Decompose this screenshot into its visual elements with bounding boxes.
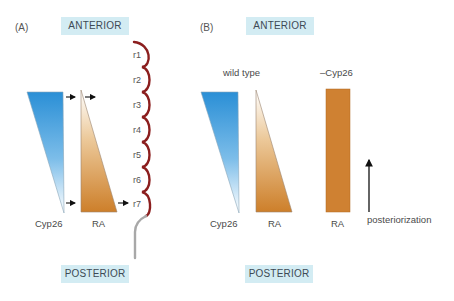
panel-b-cyp26-gradient bbox=[201, 92, 239, 213]
panel-b-anterior-label: ANTERIOR bbox=[246, 17, 314, 35]
rhombomere-label: r6 bbox=[133, 175, 141, 185]
panel-a-anterior-label: ANTERIOR bbox=[61, 17, 129, 35]
panel-b-ra-uniform bbox=[326, 89, 350, 212]
panel-b-cyp26-label: Cyp26 bbox=[210, 218, 237, 229]
panel-a-ra-gradient bbox=[81, 90, 117, 212]
rhombomere-label: r5 bbox=[133, 150, 141, 160]
panel-b-ra-gradient bbox=[256, 90, 292, 212]
cyp26-knockout-label: –Cyp26 bbox=[320, 67, 353, 78]
rhombomere-label: r7 bbox=[133, 199, 141, 209]
panel-a-cyp26-label: Cyp26 bbox=[35, 218, 62, 229]
diagram-graphics bbox=[0, 0, 454, 301]
panel-b-ra-label: RA bbox=[268, 218, 281, 229]
panel-a-cyp26-gradient bbox=[27, 92, 64, 213]
spinal-cord bbox=[135, 216, 146, 258]
rhombomere-label: r2 bbox=[133, 75, 141, 85]
wild-type-label: wild type bbox=[223, 67, 260, 78]
panel-a-ra-label: RA bbox=[92, 218, 105, 229]
panel-b-ra-knockout-label: RA bbox=[331, 218, 344, 229]
rhombomere-label: r4 bbox=[133, 125, 141, 135]
rhombomere-label: r3 bbox=[133, 100, 141, 110]
panel-a-posterior-label: POSTERIOR bbox=[61, 265, 129, 283]
rhombomere-label: r1 bbox=[133, 50, 141, 60]
panel-a-label: (A) bbox=[15, 22, 28, 33]
panel-b-label: (B) bbox=[200, 22, 213, 33]
posteriorization-label: posteriorization bbox=[367, 214, 431, 225]
panel-b-posterior-label: POSTERIOR bbox=[245, 265, 313, 283]
